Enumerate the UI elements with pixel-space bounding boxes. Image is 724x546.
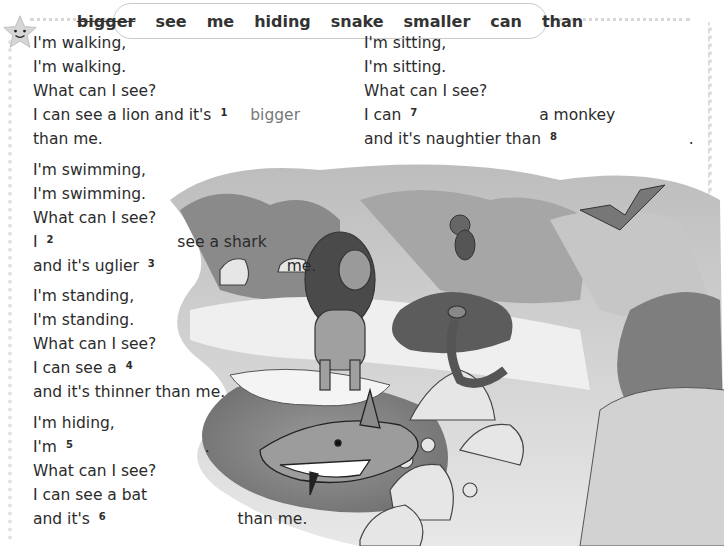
word-bank-word: see — [155, 12, 186, 31]
verse-line: and it's 6 than me. — [33, 507, 307, 531]
word-bank-word: snake — [331, 12, 384, 31]
word-bank-word: can — [490, 12, 522, 31]
verse-text: me. — [287, 257, 317, 275]
blank-number: 4 — [126, 360, 133, 371]
verse-text: a monkey — [539, 106, 615, 124]
verse-line: and it's naughtier than 8 . — [364, 127, 694, 151]
stanza-hiding: I'm hiding, I'm 5 . What can I see? I ca… — [33, 411, 307, 531]
blank-number: 6 — [99, 511, 106, 522]
verse-text: . — [689, 130, 694, 148]
word-bank-word: hiding — [254, 12, 311, 31]
verse-line: What can I see? — [33, 79, 300, 103]
verse-line: I'm 5 . — [33, 435, 307, 459]
word-bank-word: than — [542, 12, 583, 31]
verse-line: I'm standing. — [33, 308, 242, 332]
verse-line: What can I see? — [33, 459, 307, 483]
verse-line: I can see a 4 — [33, 356, 242, 380]
verse-line: I'm swimming, — [33, 158, 316, 182]
verse-line: I'm sitting, — [364, 31, 694, 55]
blank-number: 5 — [66, 439, 73, 450]
blank-number: 2 — [47, 234, 54, 245]
blank-number: 1 — [220, 107, 227, 118]
stanza-sitting: I'm sitting, I'm sitting. What can I see… — [364, 31, 694, 151]
word-bank-word: smaller — [404, 12, 471, 31]
answer-blank-1[interactable]: bigger — [250, 106, 300, 124]
verse-line: What can I see? — [364, 79, 694, 103]
verse-text: I — [33, 233, 38, 251]
verse-line: I can see a bat — [33, 483, 307, 507]
verse-text: I can see a lion and it's — [33, 106, 211, 124]
verse-line: What can I see? — [33, 332, 242, 356]
stanza-swimming: I'm swimming, I'm swimming. What can I s… — [33, 158, 316, 278]
verse-line: I'm standing, — [33, 284, 242, 308]
word-bank-word: me — [207, 12, 235, 31]
verse-line: I can see a lion and it's 1 bigger — [33, 103, 300, 127]
verse-text: and it's naughtier than — [364, 130, 541, 148]
verse-line: I'm swimming. — [33, 182, 316, 206]
verse-line: I'm walking. — [33, 55, 300, 79]
stanza-standing: I'm standing, I'm standing. What can I s… — [33, 284, 242, 404]
verse-text: I'm — [33, 438, 57, 456]
verse-text: see a shark — [177, 233, 266, 251]
verse-text: I can see a — [33, 359, 117, 377]
stanza-walking: I'm walking, I'm walking. What can I see… — [33, 31, 300, 151]
verse-line: I'm walking, — [33, 31, 300, 55]
verse-line: I'm sitting. — [364, 55, 694, 79]
word-bank-word-used: bigger — [77, 12, 136, 31]
blank-number: 7 — [410, 107, 417, 118]
verse-text: than me. — [238, 510, 308, 528]
dotted-frame-left — [8, 40, 12, 540]
verse-line: I'm hiding, — [33, 411, 307, 435]
blank-number: 8 — [550, 131, 557, 142]
verse-text: and it's uglier — [33, 257, 139, 275]
verse-text: and it's — [33, 510, 90, 528]
verse-text: . — [205, 438, 210, 456]
blank-number: 3 — [148, 258, 155, 269]
verse-line: What can I see? — [33, 206, 316, 230]
verse-line: I can 7 a monkey — [364, 103, 694, 127]
verse-text: I can — [364, 106, 401, 124]
verse-line: I 2 see a shark — [33, 230, 316, 254]
verse-line: and it's uglier 3 me. — [33, 254, 316, 278]
verse-line: and it's thinner than me. — [33, 380, 242, 404]
verse-line: than me. — [33, 127, 300, 151]
